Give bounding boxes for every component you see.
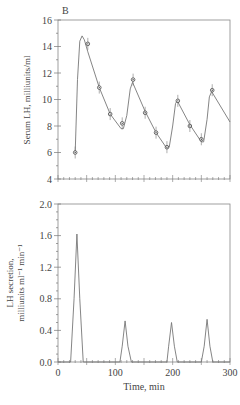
- y-tick-label: 6: [47, 147, 52, 158]
- y-tick-label: 0.8: [40, 293, 53, 304]
- top-x-axis: [58, 175, 230, 182]
- bottom-y-axis-label-line1: LH secretion,: [5, 259, 15, 308]
- bottom-panel: 0.00.40.81.21.62.0 0100200300 LH secreti…: [5, 199, 238, 393]
- data-point-center: [201, 139, 202, 140]
- top-plot-frame: [58, 20, 230, 179]
- y-tick-label: 12: [42, 68, 52, 79]
- data-points: [73, 38, 214, 159]
- secretion-curve: [58, 234, 230, 362]
- panel-label: B: [62, 5, 69, 16]
- data-point-center: [189, 125, 190, 126]
- figure: B 46810121416 Serum LH, milliunits/ml 0.…: [0, 0, 240, 405]
- y-tick-label: 1.6: [40, 230, 53, 241]
- top-panel: 46810121416 Serum LH, milliunits/ml: [22, 15, 230, 185]
- data-point-center: [166, 147, 167, 148]
- bottom-plot-frame: [58, 204, 230, 362]
- data-point-center: [99, 87, 100, 88]
- x-tick-label: 0: [56, 367, 61, 378]
- x-axis-label: Time, min: [123, 381, 164, 392]
- data-point-center: [132, 79, 133, 80]
- data-point-center: [109, 113, 110, 114]
- data-point-center: [177, 100, 178, 101]
- data-point-center: [212, 90, 213, 91]
- data-point-center: [144, 112, 145, 113]
- y-tick-label: 4: [47, 174, 52, 185]
- y-tick-label: 0.0: [40, 357, 53, 368]
- x-tick-label: 200: [165, 367, 180, 378]
- bottom-y-axis-label-line2: milliunits ml⁻¹ min⁻¹: [16, 244, 26, 322]
- x-tick-label: 300: [223, 367, 238, 378]
- y-tick-label: 16: [42, 15, 52, 26]
- data-point-center: [122, 123, 123, 124]
- x-tick-label: 100: [108, 367, 123, 378]
- y-tick-label: 14: [42, 41, 52, 52]
- top-y-axis-label: Serum LH, milliunits/ml: [22, 55, 32, 144]
- y-tick-label: 0.4: [40, 325, 53, 336]
- data-point-center: [75, 152, 76, 153]
- fitted-curve: [75, 36, 230, 153]
- data-point-center: [155, 132, 156, 133]
- y-tick-label: 8: [47, 121, 52, 132]
- data-point-center: [87, 43, 88, 44]
- y-tick-label: 2.0: [40, 199, 53, 210]
- y-tick-label: 1.2: [40, 262, 53, 273]
- y-tick-label: 10: [42, 94, 52, 105]
